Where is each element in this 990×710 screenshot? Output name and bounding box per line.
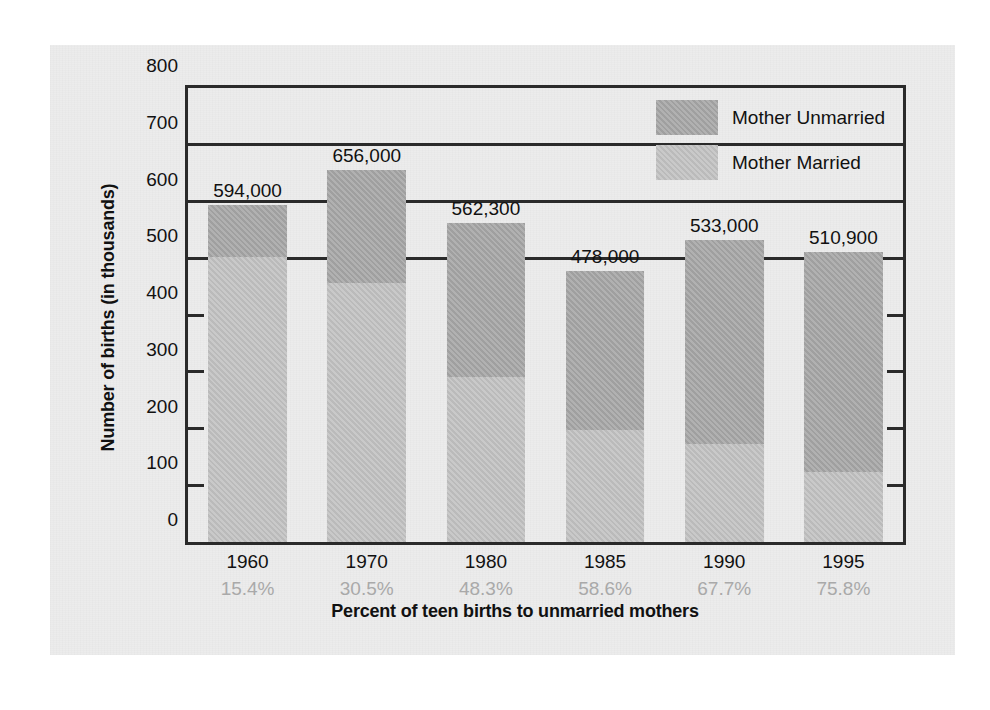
bar-segment-married[interactable] [447,377,526,542]
bar-group[interactable]: 562,300198048.3% [447,223,526,542]
y-axis-tick-label: 300 [146,339,178,361]
x-axis-percent-label: 48.3% [459,578,513,600]
bar-segment-unmarried[interactable] [804,252,883,472]
axis-tick [188,484,204,487]
y-axis-tick-label: 800 [146,55,178,77]
axis-tick [188,314,204,317]
y-axis-tick-label: 700 [146,112,178,134]
y-axis-tick-label: 0 [167,509,178,531]
bar-segment-unmarried[interactable] [447,223,526,377]
bar-segment-married[interactable] [804,472,883,542]
legend-swatch-married-icon [656,145,718,180]
bar-group[interactable]: 478,000198558.6% [566,271,645,542]
x-axis-year-label: 1980 [465,551,507,573]
x-axis-percent-label: 30.5% [340,578,394,600]
bar-segment-married[interactable] [566,430,645,542]
bar-group[interactable]: 510,900199575.8% [804,252,883,542]
plot-area: 0100200300400500600700800 594,000196015.… [185,85,906,545]
bar-segment-unmarried[interactable] [208,205,287,257]
x-axis-year-label: 1970 [346,551,388,573]
y-axis-tick-label: 400 [146,282,178,304]
legend-label-married: Mother Married [732,152,861,174]
gridline [188,200,903,203]
bar-group[interactable]: 656,000197030.5% [327,170,406,542]
y-axis-tick-label: 200 [146,396,178,418]
bar-segment-unmarried[interactable] [327,170,406,284]
x-axis-year-label: 1990 [703,551,745,573]
legend-label-unmarried: Mother Unmarried [732,107,885,129]
bar-value-label: 594,000 [213,180,282,202]
bar-segment-married[interactable] [327,283,406,542]
legend-item-married[interactable]: Mother Married [656,140,885,185]
x-axis-title: Percent of teen births to unmarried moth… [185,601,845,622]
x-axis-percent-label: 67.7% [697,578,751,600]
x-axis-percent-label: 75.8% [816,578,870,600]
gridline [188,257,903,260]
bar-group[interactable]: 594,000196015.4% [208,205,287,542]
x-axis-percent-label: 58.6% [578,578,632,600]
axis-tick [188,370,204,373]
x-axis-percent-label: 15.4% [221,578,275,600]
chart-legend: Mother Unmarried Mother Married [656,95,885,185]
bar-segment-unmarried[interactable] [685,240,764,445]
axis-tick [887,314,903,317]
bar-group[interactable]: 533,000199067.7% [685,240,764,542]
axis-tick [188,427,204,430]
bar-value-label: 510,900 [809,227,878,249]
figure-panel: Number of births (in thousands) Percent … [50,45,955,655]
y-axis-title: Number of births (in thousands) [98,168,119,468]
x-axis-year-label: 1960 [226,551,268,573]
bar-segment-married[interactable] [208,257,287,542]
bar-segment-unmarried[interactable] [566,271,645,430]
bar-value-label: 656,000 [332,145,401,167]
legend-swatch-unmarried-icon [656,100,718,135]
legend-item-unmarried[interactable]: Mother Unmarried [656,95,885,140]
bar-segment-married[interactable] [685,444,764,542]
bar-value-label: 478,000 [571,246,640,268]
x-axis-year-label: 1995 [822,551,864,573]
axis-tick [887,484,903,487]
bar-value-label: 533,000 [690,215,759,237]
y-axis-tick-label: 600 [146,169,178,191]
axis-tick [887,427,903,430]
bar-value-label: 562,300 [452,198,521,220]
y-axis-tick-label: 100 [146,452,178,474]
axis-tick [887,370,903,373]
y-axis-tick-label: 500 [146,225,178,247]
x-axis-year-label: 1985 [584,551,626,573]
